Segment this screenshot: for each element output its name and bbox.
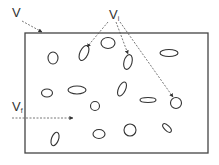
matrix-volume-label: Vf: [12, 99, 23, 114]
inclusion-ellipse: [122, 54, 134, 71]
inclusion-volume-label: Vi: [109, 7, 120, 22]
inclusion-arrow-2: [116, 22, 128, 54]
inclusion-ellipse: [68, 86, 86, 94]
total-volume-arrow: [22, 21, 42, 32]
inclusion-ellipse: [124, 124, 136, 136]
inclusion-ellipse: [101, 38, 115, 49]
total-volume-label: V: [12, 5, 21, 20]
inclusion-ellipse: [48, 52, 58, 64]
inclusion-ellipse: [49, 131, 60, 147]
inclusion-ellipse: [171, 98, 182, 109]
inclusion-ellipse: [77, 44, 91, 62]
inclusion-ellipse: [160, 50, 178, 57]
inclusion-ellipse: [91, 102, 100, 111]
inclusion-ellipse: [116, 81, 129, 98]
inclusion-volume-diagram: V Vi Vf: [0, 0, 219, 165]
inclusion-ellipse: [140, 98, 156, 103]
inclusion-arrow-1: [87, 22, 108, 47]
inclusions-group: [42, 38, 182, 147]
inclusion-ellipse: [93, 130, 105, 139]
inclusion-ellipse: [42, 89, 53, 97]
inclusion-ellipse: [161, 122, 172, 133]
